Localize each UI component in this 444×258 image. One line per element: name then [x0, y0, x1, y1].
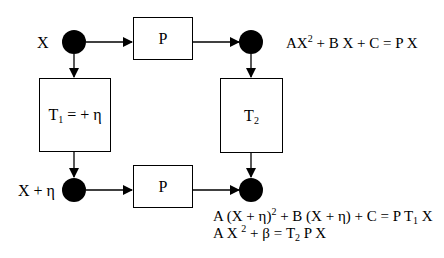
eq-b1-c: X: [418, 208, 433, 224]
box-p-bottom-label: P: [159, 178, 168, 196]
eq-b2-a: A X: [213, 225, 241, 241]
box-p-top-label: P: [159, 30, 168, 48]
equation-bottom-1: A (X + η)2 + B (X + η) + C = P T1 X: [213, 208, 433, 224]
equation-bottom-2: A X 2 + β = T2 P X: [213, 225, 326, 241]
t2-sub: 2: [254, 115, 259, 126]
t1-main: T: [48, 106, 58, 123]
node-top-left: [62, 30, 86, 54]
node-bottom-left: [62, 178, 86, 202]
t1-rest: = + η: [63, 106, 101, 123]
node-top-right: [239, 30, 263, 54]
t2-main: T: [244, 107, 254, 124]
eq-b1-a: A (X + η): [213, 208, 271, 224]
eq-top-a: AX: [286, 35, 308, 51]
eq-b2-b: + β = T: [246, 225, 295, 241]
box-t2-label: T2: [244, 107, 259, 125]
eq-b1-b: + B (X + η) + C = P T: [276, 208, 413, 224]
label-x: X: [37, 35, 49, 51]
box-p-top: P: [133, 17, 193, 60]
box-t1-label: T1 = + η: [48, 106, 101, 124]
label-x-plus-eta: X + η: [18, 183, 55, 199]
box-t1: T1 = + η: [39, 78, 111, 152]
equation-top: AX2 + B X + C = P X: [286, 35, 418, 51]
eq-top-b: + B X + C = P X: [313, 35, 418, 51]
node-bottom-right: [239, 178, 263, 202]
eq-b2-c: P X: [300, 225, 326, 241]
box-t2: T2: [220, 78, 283, 153]
box-p-bottom: P: [133, 165, 193, 208]
